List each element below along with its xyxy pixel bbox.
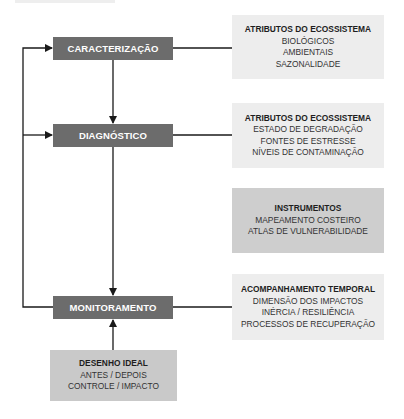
design-title: DESENHO IDEAL (50, 358, 177, 370)
stage-caracterizacao: CARACTERIZAÇÃO (53, 37, 173, 60)
info-box-temporal-monitoring: ACOMPANHAMENTO TEMPORAL DIMENSÃO DOS IMP… (232, 274, 384, 340)
info-box-instruments: INSTRUMENTOS MAPEAMENTO COSTEIRO ATLAS D… (232, 188, 384, 253)
info-title: INSTRUMENTOS (232, 203, 384, 215)
info-line: ATLAS DE VULNERABILIDADE (232, 226, 384, 238)
stage-label: DIAGNÓSTICO (79, 130, 147, 141)
info-box-biological-attributes: ATRIBUTOS DO ECOSSISTEMA BIOLÓGICOS AMBI… (232, 15, 384, 79)
design-line: ANTES / DEPOIS (50, 370, 177, 382)
info-line: ESTADO DE DEGRADAÇÃO (232, 124, 384, 136)
info-line: NÍVEIS DE CONTAMINAÇÃO (232, 147, 384, 159)
info-line: MAPEAMENTO COSTEIRO (232, 215, 384, 227)
design-line: CONTROLE / IMPACTO (50, 381, 177, 393)
info-line: FONTES DE ESTRESSE (232, 136, 384, 148)
info-line: SAZONALIDADE (232, 59, 384, 71)
info-title: ATRIBUTOS DO ECOSSISTEMA (232, 24, 384, 36)
stage-label: MONITORAMENTO (70, 302, 157, 313)
info-line: BIOLÓGICOS (232, 36, 384, 48)
info-line: PROCESSOS DE RECUPERAÇÃO (232, 319, 384, 331)
info-line: AMBIENTAIS (232, 47, 384, 59)
info-line: DIMENSÃO DOS IMPACTOS (232, 296, 384, 308)
stage-monitoramento: MONITORAMENTO (53, 296, 173, 319)
stage-diagnostico: DIAGNÓSTICO (53, 124, 173, 147)
info-line: INÉRCIA / RESILIÊNCIA (232, 307, 384, 319)
design-box-ideal: DESENHO IDEAL ANTES / DEPOIS CONTROLE / … (50, 350, 177, 401)
info-title: ATRIBUTOS DO ECOSSISTEMA (232, 113, 384, 125)
stage-label: CARACTERIZAÇÃO (67, 43, 158, 54)
info-box-degradation-attributes: ATRIBUTOS DO ECOSSISTEMA ESTADO DE DEGRA… (232, 103, 384, 168)
info-title: ACOMPANHAMENTO TEMPORAL (232, 284, 384, 296)
